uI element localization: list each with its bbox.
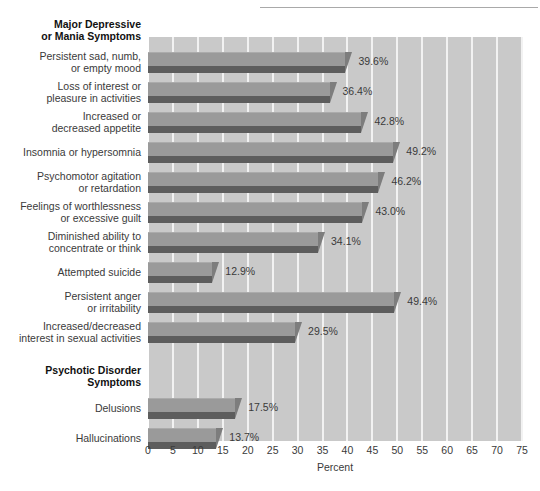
x-tick-label-15: 15 (217, 444, 229, 456)
chart-row: Insomnia or hypersomnia49.2% (0, 138, 540, 168)
bar-bevel (345, 52, 352, 73)
bar-value-label: 29.5% (308, 325, 338, 337)
bar-front-face (148, 276, 212, 283)
chart-row: Persistent anger or irritability49.4% (0, 288, 540, 318)
x-tick-label-0: 0 (145, 444, 151, 456)
bar-front-face (148, 126, 361, 133)
x-tick-label-60: 60 (441, 444, 453, 456)
bar-value-label: 39.6% (358, 55, 388, 67)
bar[interactable] (148, 292, 394, 313)
bar-bevel (318, 232, 325, 253)
bar-front-face (148, 412, 235, 419)
section-heading-0: Major Depressive or Mania Symptoms (0, 18, 141, 43)
bar-bevel (295, 322, 302, 343)
x-tick-label-25: 25 (267, 444, 279, 456)
x-tick-label-65: 65 (466, 444, 478, 456)
bar-front-face (148, 156, 393, 163)
category-label: Attempted suicide (0, 266, 141, 278)
chart-row: Loss of interest or pleasure in activiti… (0, 78, 540, 108)
bar-top-face (148, 232, 318, 247)
category-label: Increased/decreased interest in sexual a… (0, 320, 141, 345)
horizontal-bar-chart: Major Depressive or Mania SymptomsPersis… (0, 0, 540, 491)
bar-front-face (148, 96, 330, 103)
bar[interactable] (148, 262, 212, 283)
bar-bevel (212, 262, 219, 283)
x-axis-ticks: 051015202530354045505560657075 (148, 444, 522, 458)
bar[interactable] (148, 142, 393, 163)
bar-value-label: 17.5% (248, 401, 278, 413)
x-tick-label-5: 5 (170, 444, 176, 456)
category-label: Feelings of worthlessness or excessive g… (0, 200, 141, 225)
category-label: Increased or decreased appetite (0, 110, 141, 135)
bar[interactable] (148, 322, 295, 343)
x-tick-label-35: 35 (317, 444, 329, 456)
x-axis-title: Percent (148, 461, 522, 473)
bar-bevel (378, 172, 385, 193)
bar-top-face (148, 398, 235, 413)
x-tick-label-45: 45 (367, 444, 379, 456)
bar-value-label: 43.0% (375, 205, 405, 217)
bar-front-face (148, 186, 378, 193)
bar-top-face (148, 262, 212, 277)
bar-value-label: 49.2% (406, 145, 436, 157)
category-label: Insomnia or hypersomnia (0, 146, 141, 158)
bar-front-face (148, 336, 295, 343)
bar-bevel (394, 292, 401, 313)
bar-top-face (148, 82, 330, 97)
category-label: Loss of interest or pleasure in activiti… (0, 80, 141, 105)
bar[interactable] (148, 398, 235, 419)
category-label: Persistent sad, numb, or empty mood (0, 50, 141, 75)
bar-bevel (362, 202, 369, 223)
bar-bevel (361, 112, 368, 133)
category-label: Delusions (0, 402, 141, 414)
chart-row: Increased or decreased appetite42.8% (0, 108, 540, 138)
bar[interactable] (148, 112, 361, 133)
category-label: Hallucinations (0, 432, 141, 444)
bar-top-face (148, 202, 362, 217)
chart-row: Psychomotor agitation or retardation46.2… (0, 168, 540, 198)
bar-value-label: 49.4% (407, 295, 437, 307)
bar-top-face (148, 322, 295, 337)
bar-front-face (148, 246, 318, 253)
bar[interactable] (148, 82, 330, 103)
section-heading-1: Psychotic Disorder Symptoms (0, 364, 141, 389)
bar-value-label: 42.8% (374, 115, 404, 127)
bar-front-face (148, 216, 362, 223)
category-label: Persistent anger or irritability (0, 290, 141, 315)
bar[interactable] (148, 172, 378, 193)
bar-top-face (148, 142, 393, 157)
bar-bevel (330, 82, 337, 103)
x-tick-label-40: 40 (342, 444, 354, 456)
bar-front-face (148, 66, 345, 73)
x-tick-label-20: 20 (242, 444, 254, 456)
bar-top-face (148, 292, 394, 307)
bar-value-label: 46.2% (391, 175, 421, 187)
bar-top-face (148, 112, 361, 127)
bar-bevel (393, 142, 400, 163)
chart-row: Attempted suicide12.9% (0, 258, 540, 288)
x-tick-label-70: 70 (491, 444, 503, 456)
bar-top-face (148, 428, 216, 443)
chart-row: Increased/decreased interest in sexual a… (0, 318, 540, 348)
x-tick-label-10: 10 (192, 444, 204, 456)
chart-row: Delusions17.5% (0, 394, 540, 424)
category-label: Psychomotor agitation or retardation (0, 170, 141, 195)
x-tick-label-50: 50 (391, 444, 403, 456)
bar-top-face (148, 52, 345, 67)
bar[interactable] (148, 52, 345, 73)
bar-value-label: 12.9% (225, 265, 255, 277)
chart-row: Diminished ability to concentrate or thi… (0, 228, 540, 258)
chart-row: Feelings of worthlessness or excessive g… (0, 198, 540, 228)
x-tick-label-30: 30 (292, 444, 304, 456)
bar-bevel (235, 398, 242, 419)
bar-top-face (148, 172, 378, 187)
x-tick-label-55: 55 (416, 444, 428, 456)
x-tick-label-75: 75 (516, 444, 528, 456)
category-label: Diminished ability to concentrate or thi… (0, 230, 141, 255)
chart-row: Persistent sad, numb, or empty mood39.6% (0, 48, 540, 78)
bar-value-label: 13.7% (229, 431, 259, 443)
bar-value-label: 36.4% (343, 85, 373, 97)
bar[interactable] (148, 202, 362, 223)
bar-value-label: 34.1% (331, 235, 361, 247)
bar[interactable] (148, 232, 318, 253)
